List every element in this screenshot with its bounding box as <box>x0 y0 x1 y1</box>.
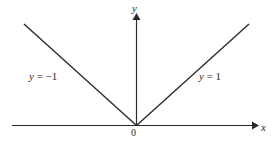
y-axis-arrowhead <box>133 13 141 20</box>
math-graph-figure: y x y = −1 y = 1 0 <box>0 0 273 148</box>
left-branch-label: y = −1 <box>29 71 57 82</box>
x-axis-label: x <box>261 122 266 133</box>
origin-label: 0 <box>131 128 136 138</box>
right-branch-line <box>137 24 250 126</box>
right-branch-label-value: = 1 <box>207 70 221 82</box>
y-axis-label: y <box>132 3 137 14</box>
x-axis-arrowhead <box>252 122 259 130</box>
right-branch-label: y = 1 <box>199 71 221 82</box>
left-branch-label-value: = −1 <box>37 70 58 82</box>
